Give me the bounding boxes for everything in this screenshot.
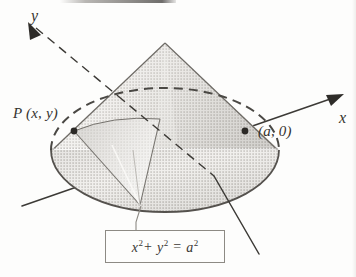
point-label-a: (a, 0): [258, 124, 292, 139]
equation-equals: =: [172, 239, 182, 254]
cone-base-disk: [48, 148, 284, 218]
equation-y-base: y: [157, 239, 164, 254]
equation-y-exponent: 2: [164, 238, 169, 248]
x-axis-arrowhead: [326, 94, 344, 106]
equation-callout-box: x2+ y2 = a2: [105, 230, 225, 263]
y-axis-dashed-upper: [36, 28, 118, 96]
point-marker-P: [71, 128, 78, 135]
cone-diagram-figure: y x P (x, y) (a, 0) x2+ y2 = a2: [0, 0, 356, 277]
equation-text: x2+ y2 = a2: [132, 238, 198, 256]
point-label-P: P (x, y): [13, 106, 58, 121]
equation-plus: +: [143, 239, 153, 254]
equation-a-exponent: 2: [194, 238, 199, 248]
point-marker-a: [242, 128, 249, 135]
scan-artifact-right-edge: [352, 0, 356, 277]
x-axis-label: x: [339, 110, 346, 126]
equation-a-base: a: [186, 239, 193, 254]
scan-artifact-top-bar: [60, 0, 176, 3]
y-axis-label: y: [31, 8, 38, 24]
